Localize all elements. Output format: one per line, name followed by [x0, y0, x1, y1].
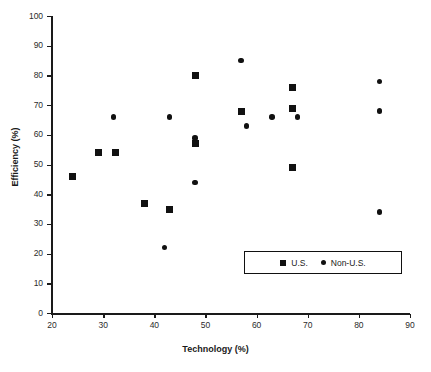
y-tick-label: 30	[13, 218, 43, 228]
x-tick	[52, 314, 53, 318]
x-tick-label: 40	[139, 320, 169, 330]
data-point-non-u-s	[377, 108, 383, 114]
y-tick	[47, 313, 51, 314]
scatter-chart: 0102030405060708090100 2030405060708090 …	[0, 0, 431, 372]
y-tick	[47, 254, 51, 255]
y-tick	[47, 16, 51, 17]
data-point-u-s	[141, 200, 148, 207]
x-tick	[257, 314, 258, 318]
legend-entry-non-us: Non-U.S.	[321, 258, 366, 268]
y-tick	[47, 283, 51, 284]
data-point-non-u-s	[111, 114, 117, 120]
y-tick-label: 20	[13, 248, 43, 258]
x-tick	[154, 314, 155, 318]
data-point-non-u-s	[192, 135, 198, 141]
data-point-non-u-s	[295, 114, 301, 120]
x-tick	[205, 314, 206, 318]
data-point-non-u-s	[192, 180, 198, 186]
legend-label-us: U.S.	[291, 258, 308, 268]
legend-label-non-us: Non-U.S.	[331, 258, 366, 268]
x-tick-label: 70	[293, 320, 323, 330]
legend-entry-us: U.S.	[280, 258, 308, 268]
data-point-non-u-s	[269, 114, 275, 120]
data-point-u-s	[238, 108, 245, 115]
y-tick	[47, 135, 51, 136]
data-point-u-s	[166, 206, 173, 213]
y-tick	[47, 105, 51, 106]
x-tick-label: 20	[37, 320, 67, 330]
data-point-u-s	[192, 140, 199, 147]
y-tick-label: 90	[13, 40, 43, 50]
x-tick-label: 50	[190, 320, 220, 330]
y-tick-label: 10	[13, 278, 43, 288]
x-tick-label: 60	[242, 320, 272, 330]
y-tick-label: 80	[13, 70, 43, 80]
data-point-u-s	[289, 105, 296, 112]
y-tick	[47, 46, 51, 47]
data-point-u-s	[192, 72, 199, 79]
x-tick	[359, 314, 360, 318]
data-point-u-s	[69, 173, 76, 180]
x-tick	[103, 314, 104, 318]
y-tick	[47, 165, 51, 166]
x-axis-line	[51, 313, 410, 315]
y-tick	[47, 194, 51, 195]
chart-legend: U.S. Non-U.S.	[244, 251, 402, 274]
data-point-u-s	[289, 164, 296, 171]
circle-marker-icon	[321, 260, 326, 265]
data-point-u-s	[95, 149, 102, 156]
y-tick	[47, 224, 51, 225]
x-tick-label: 80	[344, 320, 374, 330]
data-point-u-s	[289, 84, 296, 91]
data-point-non-u-s	[377, 209, 383, 215]
x-tick	[410, 314, 411, 318]
x-tick-label: 90	[395, 320, 425, 330]
y-tick-label: 0	[13, 308, 43, 318]
y-tick-label: 100	[13, 11, 43, 21]
data-point-u-s	[112, 149, 119, 156]
x-tick-label: 30	[88, 320, 118, 330]
x-tick	[308, 314, 309, 318]
x-axis-title: Technology (%)	[0, 344, 431, 354]
y-tick	[47, 75, 51, 76]
square-marker-icon	[280, 260, 286, 266]
data-point-non-u-s	[244, 123, 250, 129]
y-axis-title: Efficiency (%)	[10, 97, 20, 217]
